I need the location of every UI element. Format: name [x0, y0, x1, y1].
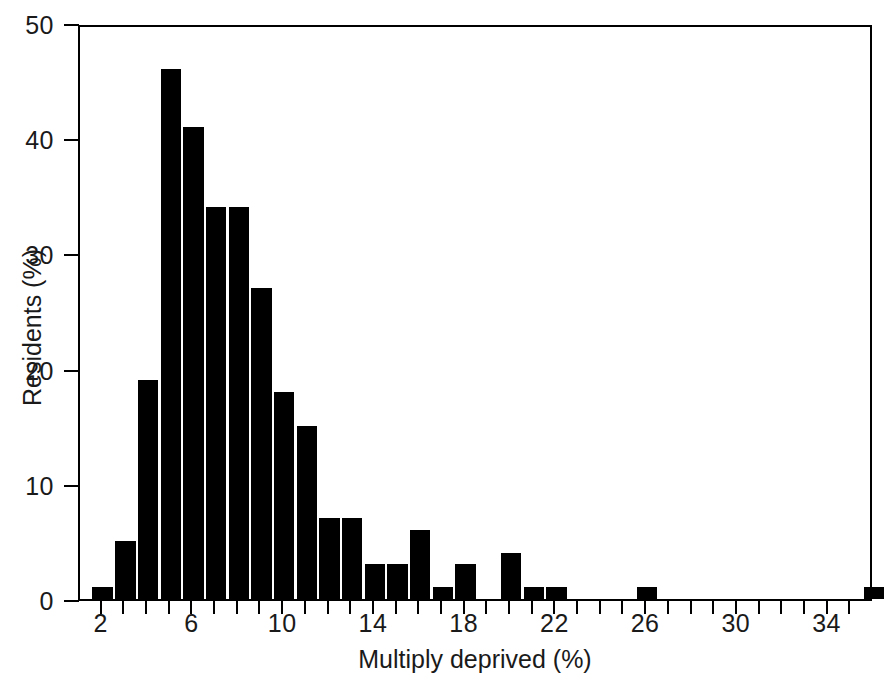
x-tick-mark	[417, 601, 419, 614]
x-tick-mark	[485, 601, 487, 614]
x-tick-mark	[213, 601, 215, 614]
x-tick-label: 14	[359, 609, 388, 638]
x-tick-mark	[236, 601, 238, 614]
x-axis-title: Multiply deprived (%)	[78, 645, 872, 674]
x-tick-mark	[168, 601, 170, 614]
x-tick-mark	[145, 601, 147, 614]
histogram-figure: 01020304050 2610141822263034 Residents (…	[0, 0, 889, 684]
x-tick-mark	[576, 601, 578, 614]
x-tick-mark	[780, 601, 782, 614]
x-tick-label: 2	[93, 609, 107, 638]
x-tick-label: 6	[184, 609, 198, 638]
x-tick-label: 18	[449, 609, 478, 638]
x-tick-mark	[848, 601, 850, 614]
x-tick-label: 30	[721, 609, 750, 638]
x-tick-mark	[395, 601, 397, 614]
x-tick-mark	[258, 601, 260, 614]
x-tick-label: 22	[540, 609, 569, 638]
x-tick-mark	[440, 601, 442, 614]
x-tick-mark	[712, 601, 714, 614]
x-tick-mark	[122, 601, 124, 614]
x-tick-mark	[327, 601, 329, 614]
x-tick-mark	[803, 601, 805, 614]
x-tick-mark	[690, 601, 692, 614]
x-tick-mark	[621, 601, 623, 614]
x-tick-label: 34	[812, 609, 841, 638]
x-tick-mark	[531, 601, 533, 614]
x-tick-mark	[508, 601, 510, 614]
x-tick-mark	[667, 601, 669, 614]
x-tick-mark	[758, 601, 760, 614]
x-tick-label: 26	[631, 609, 660, 638]
x-tick-label: 10	[268, 609, 297, 638]
x-axis: 2610141822263034	[0, 0, 889, 684]
y-axis-title: Residents (%)	[18, 178, 47, 478]
x-tick-mark	[349, 601, 351, 614]
x-tick-mark	[599, 601, 601, 614]
x-tick-mark	[304, 601, 306, 614]
